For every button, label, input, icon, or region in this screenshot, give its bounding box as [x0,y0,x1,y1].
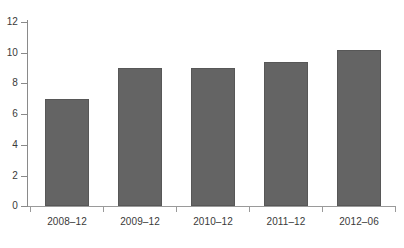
y-axis-tick-label: 4 [0,140,18,150]
y-axis-tick-label: 2 [0,171,18,181]
y-axis-line [27,20,28,207]
y-axis-tick [21,145,27,146]
x-axis-tick-label: 2012–06 [321,216,397,228]
x-axis-tick-label: 2008–12 [29,216,105,228]
x-axis-tick [249,207,250,212]
y-axis-tick [21,114,27,115]
x-axis-tick-label: 2010–12 [175,216,251,228]
y-axis-tick-label: 8 [0,78,18,88]
bar-chart: 12 10 8 6 4 2 0 2008–12 2009–12 2010–12 … [0,0,404,248]
y-axis-tick [21,83,27,84]
x-axis-tick [103,207,104,212]
bar-2011-12[interactable] [264,62,308,206]
x-axis-tick-label: 2011–12 [248,216,324,228]
x-axis-tick-label: 2009–12 [102,216,178,228]
bar-2012-06[interactable] [337,50,381,206]
y-axis-tick [21,206,27,207]
y-axis-tick-label: 12 [0,17,18,27]
x-axis-tick [176,207,177,212]
bar-2008-12[interactable] [45,99,89,206]
x-axis-tick [322,207,323,212]
y-axis-tick-label: 0 [0,201,18,211]
y-axis-tick [21,176,27,177]
y-axis-tick [21,53,27,54]
bar-2010-12[interactable] [191,68,235,206]
y-axis-tick-label: 10 [0,48,18,58]
x-axis-tick [30,207,31,212]
x-axis-line [28,206,396,207]
y-axis-tick [21,22,27,23]
bar-2009-12[interactable] [118,68,162,206]
x-axis-tick [395,207,396,212]
y-axis-tick-label: 6 [0,109,18,119]
